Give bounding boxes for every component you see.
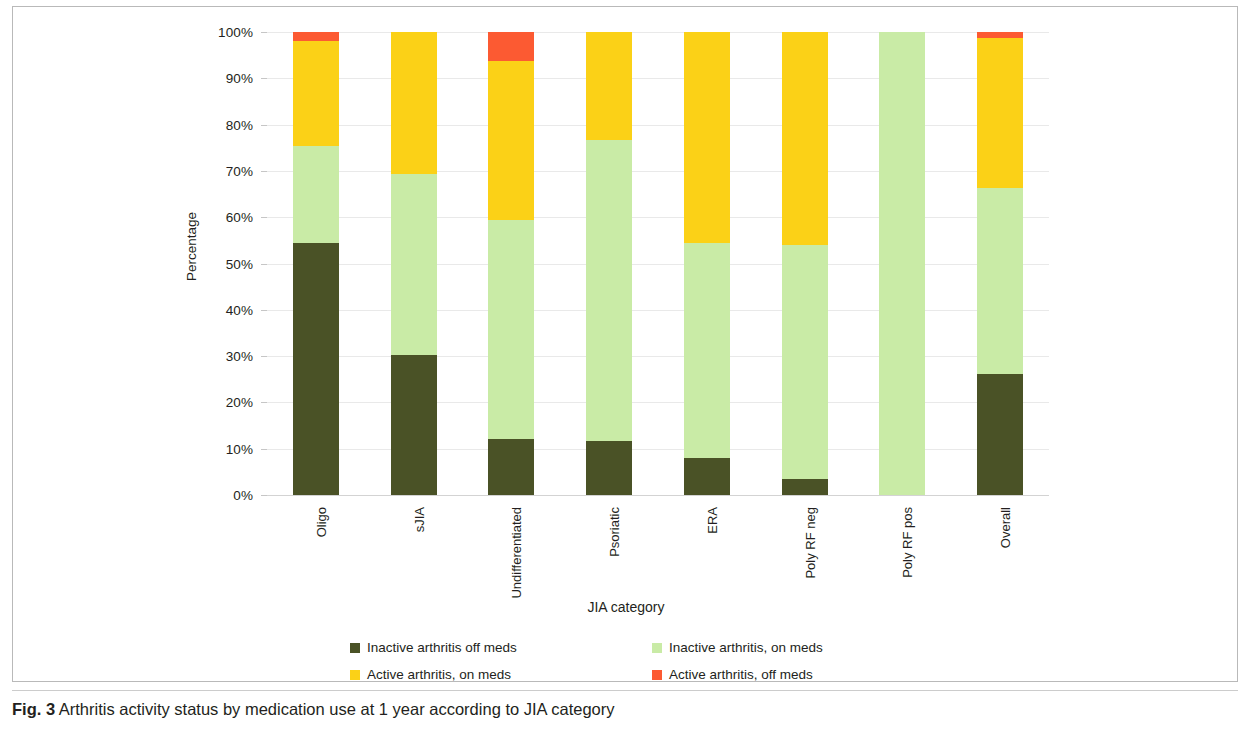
legend-swatch-icon <box>350 643 360 653</box>
legend-row: Active arthritis, on medsActive arthriti… <box>13 667 1239 682</box>
caption-divider <box>12 690 1238 691</box>
legend-item[interactable]: Inactive arthritis, on meds <box>652 640 902 655</box>
y-tick-label: 60% <box>191 210 253 225</box>
legend-item[interactable]: Inactive arthritis off meds <box>350 640 600 655</box>
bar-segment[interactable] <box>391 355 437 495</box>
bar-segment[interactable] <box>782 32 828 245</box>
x-tick-label: Undifferentiated <box>516 415 531 507</box>
x-tick-label: sJIA <box>419 482 434 507</box>
y-tick-label: 50% <box>191 256 253 271</box>
y-tick-label: 70% <box>191 163 253 178</box>
bar-slot <box>560 32 658 495</box>
bar-slot <box>756 32 854 495</box>
bars-layer <box>267 32 1049 495</box>
bar-slot <box>463 32 561 495</box>
figure-caption-label: Fig. 3 <box>12 700 55 718</box>
y-tick-label: 0% <box>191 488 253 503</box>
legend-label: Active arthritis, on meds <box>367 667 511 682</box>
figure-root: Percentage 0%10%20%30%40%50%60%70%80%90%… <box>0 0 1251 732</box>
chart-panel: Percentage 0%10%20%30%40%50%60%70%80%90%… <box>12 6 1238 682</box>
chart-legend: Inactive arthritis off medsInactive arth… <box>13 640 1239 694</box>
bar-slot <box>267 32 365 495</box>
legend-item[interactable]: Active arthritis, off meds <box>652 667 902 682</box>
bar-slot <box>658 32 756 495</box>
bar-segment[interactable] <box>586 32 632 140</box>
legend-label: Active arthritis, off meds <box>669 667 813 682</box>
bar-segment[interactable] <box>293 243 339 495</box>
x-tick-label: Psoriatic <box>614 457 629 507</box>
bar-segment[interactable] <box>391 174 437 355</box>
y-tick-label: 20% <box>191 395 253 410</box>
legend-label: Inactive arthritis, on meds <box>669 640 823 655</box>
bar-segment[interactable] <box>488 32 534 61</box>
bar-segment[interactable] <box>293 41 339 147</box>
bar-segment[interactable] <box>488 220 534 439</box>
y-tick-label: 40% <box>191 302 253 317</box>
legend-row: Inactive arthritis off medsInactive arth… <box>13 640 1239 655</box>
stacked-bar[interactable] <box>684 32 730 495</box>
x-tick-label: ERA <box>712 480 727 507</box>
stacked-bar[interactable] <box>879 32 925 495</box>
legend-swatch-icon <box>652 670 662 680</box>
bar-segment[interactable] <box>977 38 1023 188</box>
figure-caption-text: Arthritis activity status by medication … <box>59 700 615 718</box>
figure-caption: Fig. 3 Arthritis activity status by medi… <box>12 700 1238 719</box>
x-tick-label: Poly RF pos <box>907 436 922 507</box>
bar-slot <box>951 32 1049 495</box>
x-axis-title: JIA category <box>13 599 1239 615</box>
stacked-bar[interactable] <box>977 32 1023 495</box>
bar-segment[interactable] <box>586 140 632 441</box>
y-tick-label: 30% <box>191 349 253 364</box>
bar-segment[interactable] <box>684 32 730 243</box>
bar-segment[interactable] <box>293 146 339 242</box>
x-tick-label: Poly RF neg <box>810 435 825 507</box>
legend-label: Inactive arthritis off meds <box>367 640 517 655</box>
y-tick-label: 100% <box>191 25 253 40</box>
legend-swatch-icon <box>350 670 360 680</box>
x-tick-label: Oligo <box>321 477 336 507</box>
stacked-bar[interactable] <box>586 32 632 495</box>
bar-segment[interactable] <box>293 32 339 41</box>
bar-slot <box>365 32 463 495</box>
bar-segment[interactable] <box>684 243 730 458</box>
y-tick-label: 10% <box>191 441 253 456</box>
y-gridline <box>267 495 1049 496</box>
y-tick-mark <box>261 495 267 496</box>
bar-segment[interactable] <box>391 32 437 174</box>
legend-item[interactable]: Active arthritis, on meds <box>350 667 600 682</box>
legend-swatch-icon <box>652 643 662 653</box>
stacked-bar[interactable] <box>391 32 437 495</box>
y-tick-label: 80% <box>191 117 253 132</box>
bar-segment[interactable] <box>879 32 925 495</box>
stacked-bar[interactable] <box>293 32 339 495</box>
bar-segment[interactable] <box>977 32 1023 38</box>
y-tick-label: 90% <box>191 71 253 86</box>
stacked-bar[interactable] <box>782 32 828 495</box>
x-tick-label: Overall <box>1005 466 1020 507</box>
bar-slot <box>854 32 952 495</box>
bar-segment[interactable] <box>977 188 1023 374</box>
bar-segment[interactable] <box>488 61 534 221</box>
